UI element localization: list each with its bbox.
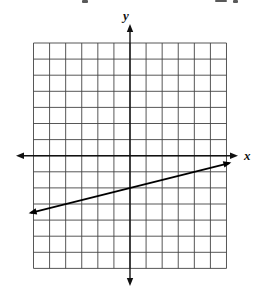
y-axis-up-arrow-icon	[127, 24, 133, 32]
x-axis-right-arrow-icon	[230, 153, 238, 159]
plotted-line-right-arrow-icon	[223, 161, 232, 167]
plotted-line-left-arrow-icon	[29, 208, 38, 214]
x-axis-label: x	[244, 149, 251, 162]
graph-svg	[0, 0, 264, 296]
coordinate-plane-figure: y x	[0, 0, 264, 296]
y-axis-label: y	[123, 9, 129, 22]
y-axis-down-arrow-icon	[127, 278, 133, 286]
x-axis-left-arrow-icon	[16, 153, 24, 159]
